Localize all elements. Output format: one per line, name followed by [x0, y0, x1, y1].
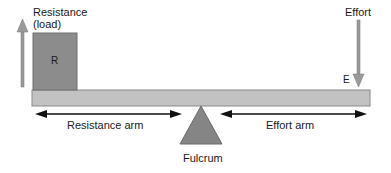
effort-arrow-down-icon: [353, 20, 364, 87]
fulcrum-triangle: [180, 106, 222, 144]
load-box-letter: R: [51, 55, 58, 67]
resistance-label: Resistance: [33, 6, 87, 18]
effort-arm-label: Effort arm: [266, 119, 314, 131]
effort-arm-arrow-icon: [220, 110, 367, 118]
lever-beam: [32, 90, 370, 106]
effort-label: Effort: [345, 6, 371, 18]
resistance-arm-arrow-icon: [35, 110, 182, 118]
effort-point-letter: E: [343, 74, 350, 86]
resistance-arm-label: Resistance arm: [67, 119, 143, 131]
fulcrum-label: Fulcrum: [183, 152, 223, 164]
resistance-load-label: (load): [33, 18, 61, 30]
resistance-arrow-up-icon: [17, 19, 28, 87]
